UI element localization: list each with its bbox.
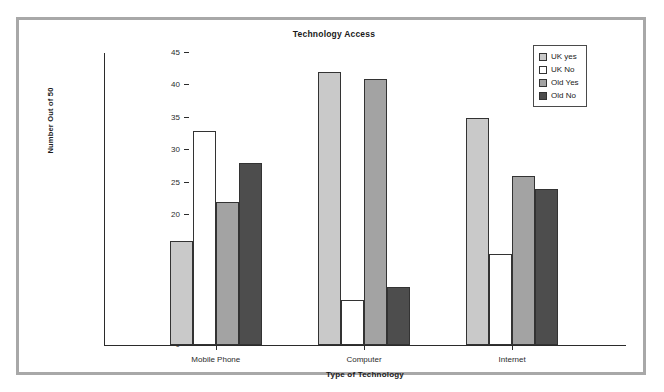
bar[interactable] <box>535 189 558 345</box>
chart-page: Technology Access 051015202530354045 Mob… <box>0 0 664 392</box>
bar-group-bars <box>170 53 262 345</box>
legend-label: UK yes <box>551 52 577 62</box>
x-axis-title: Type of Technology <box>104 370 626 379</box>
bar[interactable] <box>489 254 512 345</box>
x-axis-line <box>104 345 626 346</box>
bar[interactable] <box>341 300 364 345</box>
bar[interactable] <box>318 72 341 345</box>
legend-swatch-icon <box>539 79 547 87</box>
legend-item[interactable]: Old Yes <box>539 76 579 89</box>
legend-swatch-icon <box>539 53 547 61</box>
legend-item[interactable]: UK yes <box>539 50 579 63</box>
chart-title: Technology Access <box>19 29 649 39</box>
bar-group: Mobile Phone <box>170 53 262 345</box>
y-axis-title: Number Out of 50 <box>46 61 55 181</box>
bar[interactable] <box>387 287 410 345</box>
legend-item[interactable]: UK No <box>539 63 579 76</box>
x-axis-category-label: Internet <box>466 355 558 364</box>
legend-swatch-icon <box>539 92 547 100</box>
bar-group: Computer <box>318 53 410 345</box>
legend-swatch-icon <box>539 66 547 74</box>
chart-legend: UK yesUK NoOld YesOld No <box>533 45 587 107</box>
legend-label: Old Yes <box>551 78 579 88</box>
bar[interactable] <box>364 79 387 345</box>
legend-item[interactable]: Old No <box>539 89 579 102</box>
legend-label: Old No <box>551 91 576 101</box>
x-axis-category-label: Mobile Phone <box>170 355 262 364</box>
bar[interactable] <box>170 241 193 345</box>
bar-chart-figure: Technology Access 051015202530354045 Mob… <box>19 20 649 378</box>
x-axis-tick <box>512 345 513 350</box>
x-axis-category-label: Computer <box>318 355 410 364</box>
bar[interactable] <box>512 176 535 345</box>
x-axis-tick <box>216 345 217 350</box>
bar[interactable] <box>193 131 216 345</box>
figure-frame: Technology Access 051015202530354045 Mob… <box>16 17 646 375</box>
bar-group-bars <box>318 53 410 345</box>
legend-label: UK No <box>551 65 575 75</box>
x-axis-tick <box>364 345 365 350</box>
bar[interactable] <box>466 118 489 345</box>
bar[interactable] <box>216 202 239 345</box>
bar[interactable] <box>239 163 262 345</box>
